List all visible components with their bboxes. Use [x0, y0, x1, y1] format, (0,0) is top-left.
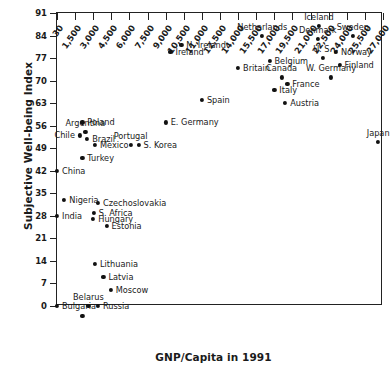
data-point — [109, 288, 113, 292]
x-tick-mark — [75, 13, 76, 20]
data-point — [279, 75, 283, 79]
data-point-label: Netherlands — [237, 22, 287, 32]
y-tick-label: 77 — [35, 53, 47, 63]
data-point-label: Czechoslovakia — [103, 198, 166, 208]
data-point-label: China — [62, 166, 85, 176]
data-point-label: U. S. — [313, 44, 332, 54]
data-point-label: Turkey — [87, 153, 114, 163]
data-point-label: Russia — [103, 301, 129, 311]
data-point — [96, 304, 100, 308]
data-point — [92, 211, 96, 215]
y-tick-label: 63 — [35, 98, 47, 108]
y-tick-mark — [50, 238, 57, 239]
x-tick-mark — [202, 13, 203, 20]
data-point-label: N. Ireland — [186, 40, 226, 50]
data-point-label: Nigeria — [69, 195, 98, 205]
data-point — [321, 56, 325, 60]
y-tick-label: 7 — [41, 278, 47, 288]
data-point — [80, 314, 84, 318]
y-tick-mark — [50, 193, 57, 194]
data-point-label: Japan — [367, 128, 390, 138]
y-tick-label: 70 — [35, 76, 47, 86]
y-tick-label: 28 — [35, 211, 47, 221]
data-point — [83, 130, 87, 134]
x-tick-mark — [347, 13, 348, 20]
x-tick-mark — [57, 13, 58, 20]
data-point — [272, 88, 276, 92]
y-axis-title: Subjective Well-being Index — [22, 61, 34, 231]
x-tick-mark — [292, 13, 293, 20]
data-point-label: E. Germany — [171, 117, 219, 127]
data-point — [78, 133, 82, 137]
y-tick-label: 56 — [35, 121, 47, 131]
x-tick-mark — [220, 13, 221, 20]
x-tick-mark — [383, 13, 384, 20]
data-point-label: Iceland — [304, 12, 334, 22]
data-point — [129, 143, 133, 147]
data-point-label: Finland — [345, 60, 374, 70]
y-tick-label: 21 — [35, 233, 47, 243]
data-point — [80, 156, 84, 160]
data-point — [62, 198, 66, 202]
data-point — [329, 75, 333, 79]
y-tick-label: 42 — [35, 166, 47, 176]
data-point — [55, 304, 59, 308]
data-point-label: Belgium — [275, 56, 309, 66]
data-point-label: France — [292, 79, 319, 89]
y-tick-mark — [50, 148, 57, 149]
y-tick-mark — [50, 103, 57, 104]
data-point-label: Chile — [54, 130, 75, 140]
x-tick-mark — [184, 13, 185, 20]
data-point-label: Poland — [87, 117, 114, 127]
x-tick-mark — [256, 13, 257, 20]
x-tick-mark — [166, 13, 167, 20]
data-point — [236, 66, 240, 70]
y-tick-label: 49 — [35, 143, 47, 153]
x-tick-mark — [93, 13, 94, 20]
data-point-label: Bulgaria — [62, 301, 96, 311]
data-point — [283, 101, 287, 105]
y-tick-label: 35 — [35, 188, 47, 198]
data-point — [91, 217, 95, 221]
data-point-label: Austria — [290, 98, 319, 108]
data-point-label: Spain — [207, 95, 230, 105]
x-tick-mark — [365, 13, 366, 20]
data-point-label: S. Africa — [99, 208, 133, 218]
data-point — [93, 262, 97, 266]
data-point — [164, 120, 168, 124]
y-tick-mark — [50, 81, 57, 82]
plot-area: 07142128354249566370778491 301,5003,0004… — [56, 12, 382, 305]
x-tick-mark — [148, 13, 149, 20]
y-tick-label: 84 — [35, 31, 47, 41]
data-point — [55, 214, 59, 218]
y-tick-mark — [50, 126, 57, 127]
x-tick-mark — [111, 13, 112, 20]
data-point — [376, 140, 380, 144]
x-axis-title: GNP/Capita in 1991 — [38, 351, 389, 363]
data-point-label: Moscow — [116, 285, 149, 295]
data-point — [55, 169, 59, 173]
data-point-label: S. Korea — [144, 140, 178, 150]
y-tick-mark — [50, 58, 57, 59]
data-point — [136, 143, 140, 147]
data-point-label: Sweden — [337, 22, 369, 32]
y-tick-mark — [50, 13, 57, 14]
data-point-label: Latvia — [108, 272, 133, 282]
data-point-label: Brazil — [92, 134, 115, 144]
x-tick-mark — [238, 13, 239, 20]
data-point-label: Lithuania — [100, 259, 138, 269]
data-point — [200, 98, 204, 102]
data-point-label: Norway — [341, 47, 372, 57]
x-tick-mark — [129, 13, 130, 20]
y-tick-mark — [50, 283, 57, 284]
y-tick-label: 0 — [41, 301, 47, 311]
y-tick-label: 91 — [35, 8, 47, 18]
x-tick-mark — [274, 13, 275, 20]
data-point-label: Belarus — [73, 292, 104, 302]
data-point — [85, 136, 89, 140]
data-point-label: India — [62, 211, 82, 221]
y-tick-label: 14 — [35, 256, 47, 266]
data-point — [101, 275, 105, 279]
y-tick-mark — [50, 261, 57, 262]
